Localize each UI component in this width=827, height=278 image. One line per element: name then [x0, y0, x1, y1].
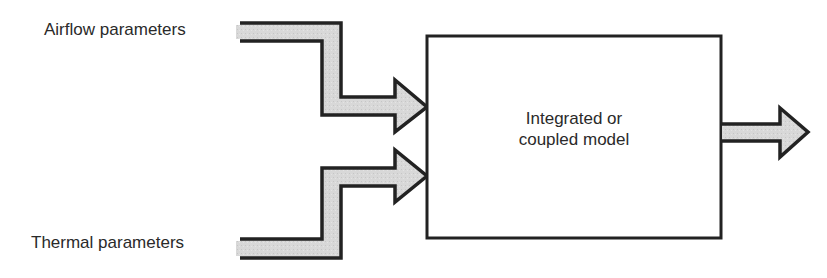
model-label-line1: Integrated or: [427, 108, 721, 129]
airflow-input-arrow: [240, 23, 427, 132]
model-label-line2: coupled model: [427, 129, 721, 150]
thermal-parameters-label: Thermal parameters: [31, 233, 184, 253]
thermal-input-arrow: [240, 150, 427, 258]
airflow-parameters-label: Airflow parameters: [44, 20, 186, 40]
output-arrow: [722, 108, 808, 157]
model-label: Integrated or coupled model: [427, 108, 721, 150]
